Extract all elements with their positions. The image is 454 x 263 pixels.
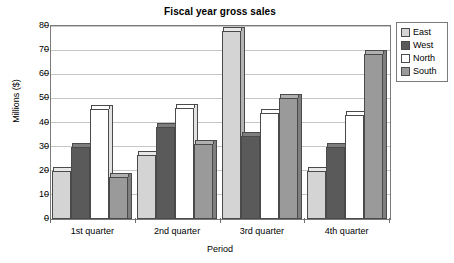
bar-south-1	[109, 177, 128, 219]
y-tick-label: 60	[25, 69, 49, 78]
y-tick-label: 30	[25, 142, 49, 151]
bar-east-1	[52, 171, 71, 219]
legend-swatch-icon	[401, 54, 410, 63]
y-tick-label: 10	[25, 190, 49, 199]
bar-side-face	[213, 140, 217, 219]
plot-area	[50, 25, 391, 220]
bar-north-4	[345, 115, 364, 219]
x-tick-mark	[220, 218, 221, 223]
bar-south-3	[279, 98, 298, 219]
chart-title: Fiscal year gross sales	[50, 6, 390, 17]
legend-label: South	[413, 67, 437, 76]
plot-inner	[51, 26, 390, 219]
y-tick-label: 50	[25, 93, 49, 102]
bar-side-face	[298, 94, 302, 219]
bar-south-4	[364, 54, 383, 219]
x-tick-label-1: 1st quarter	[47, 226, 137, 236]
y-tick-label: 80	[25, 21, 49, 30]
gridline	[51, 98, 390, 99]
legend-swatch-icon	[401, 28, 410, 37]
bar-north-3	[260, 113, 279, 219]
legend-swatch-icon	[401, 67, 410, 76]
bar-west-4	[326, 147, 345, 219]
legend-item-north[interactable]: North	[401, 52, 444, 65]
legend-swatch-icon	[401, 41, 410, 50]
bar-west-2	[156, 127, 175, 219]
x-tick-mark	[50, 218, 51, 223]
legend-item-south[interactable]: South	[401, 65, 444, 78]
legend-label: North	[413, 54, 435, 63]
bar-side-face	[383, 50, 387, 219]
bar-west-3	[241, 136, 260, 219]
x-axis-title: Period	[50, 244, 390, 254]
x-tick-mark	[389, 218, 390, 223]
gridline	[51, 74, 390, 75]
bar-north-2	[175, 108, 194, 219]
y-tick-label: 20	[25, 166, 49, 175]
x-tick-label-2: 2nd quarter	[132, 226, 222, 236]
bar-east-3	[222, 31, 241, 219]
chart-legend: EastWestNorthSouth	[396, 22, 448, 82]
legend-item-east[interactable]: East	[401, 26, 444, 39]
bar-east-4	[307, 171, 326, 219]
legend-item-west[interactable]: West	[401, 39, 444, 52]
x-tick-label-3: 3rd quarter	[217, 226, 307, 236]
bar-chart-figure: Fiscal year gross sales Millions ($) 010…	[0, 0, 454, 263]
x-tick-mark	[304, 218, 305, 223]
bar-south-2	[194, 144, 213, 219]
bar-north-1	[90, 109, 109, 219]
legend-label: East	[413, 28, 431, 37]
gridline	[51, 50, 390, 51]
x-tick-mark	[135, 218, 136, 223]
bar-west-1	[71, 147, 90, 219]
y-tick-label: 40	[25, 118, 49, 127]
gridline	[51, 26, 390, 27]
y-axis-ticks: 01020304050607080	[0, 0, 49, 263]
bar-side-face	[128, 173, 132, 219]
y-tick-label: 0	[25, 214, 49, 223]
y-tick-label: 70	[25, 45, 49, 54]
bar-east-2	[137, 155, 156, 219]
legend-label: West	[413, 41, 433, 50]
x-tick-label-4: 4th quarter	[302, 226, 392, 236]
